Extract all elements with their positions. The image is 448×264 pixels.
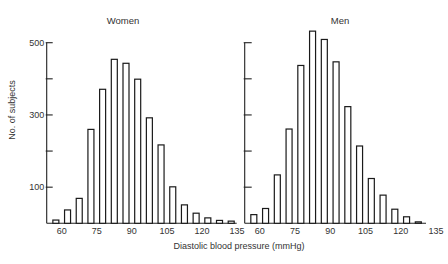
x-tick-labels: 607590105120135 (57, 226, 245, 236)
y-tick-label: 500 (29, 38, 44, 48)
x-tick-label: 135 (428, 226, 443, 236)
histogram-bar-60-65 (263, 208, 269, 223)
histogram-bar-55-60 (251, 215, 257, 224)
x-tick-label: 75 (290, 226, 300, 236)
y-tick-labels: 100300500 (29, 38, 44, 192)
y-axis-label: No. of subjects (7, 80, 17, 140)
x-tick-label: 90 (325, 226, 335, 236)
histogram-bar-65-70 (274, 175, 280, 223)
women-panel: Women 100300500 607590105120135 (29, 15, 244, 236)
histogram-bar-95-100 (146, 118, 152, 223)
histogram-figure: No. of subjects Women 100300500 60759010… (0, 0, 448, 264)
histogram-bar-120-125 (205, 218, 211, 223)
men-panel-title: Men (331, 15, 349, 26)
x-tick-label: 135 (230, 226, 245, 236)
y-tick-label: 100 (29, 182, 44, 192)
x-axis-label: Diastolic blood pressure (mmHg) (173, 241, 304, 251)
histogram-bar-105-110 (170, 187, 176, 223)
histogram-bar-75-80 (298, 65, 304, 223)
histogram-bar-90-95 (135, 79, 141, 223)
histogram-bar-65-70 (76, 198, 82, 223)
histogram-bar-125-130 (415, 222, 421, 223)
women-panel-title: Women (107, 15, 140, 26)
histogram-bar-125-130 (217, 220, 223, 223)
x-tick-label: 105 (358, 226, 373, 236)
x-tick-label: 75 (92, 226, 102, 236)
bars (53, 59, 234, 223)
x-tick-label: 120 (194, 226, 209, 236)
histogram-bar-85-90 (321, 39, 327, 223)
histogram-bar-110-115 (380, 195, 386, 223)
x-tick-label: 60 (57, 226, 67, 236)
histogram-bar-70-75 (286, 129, 292, 223)
histogram-bar-75-80 (100, 89, 106, 223)
x-tick-labels: 607590105120135 (255, 226, 444, 236)
histogram-bar-115-120 (392, 209, 398, 223)
histogram-bar-70-75 (88, 129, 94, 223)
histogram-bar-130-135 (228, 221, 234, 223)
histogram-bar-100-105 (357, 146, 363, 223)
histogram-bar-80-85 (111, 59, 117, 223)
x-tick-label: 105 (159, 226, 174, 236)
histogram-bar-95-100 (345, 107, 351, 224)
bars (251, 31, 422, 223)
histogram-bar-105-110 (368, 179, 374, 224)
x-tick-label: 120 (393, 226, 408, 236)
histogram-bar-120-125 (404, 217, 410, 224)
x-tick-label: 90 (127, 226, 137, 236)
men-panel: Men 607590105120135 (244, 15, 444, 236)
histogram-bar-110-115 (181, 205, 187, 223)
histogram-bar-90-95 (333, 62, 339, 223)
histogram-bar-55-60 (53, 220, 59, 223)
x-tick-label: 60 (255, 226, 265, 236)
histogram-bar-85-90 (123, 63, 129, 223)
histogram-bar-115-120 (193, 213, 199, 223)
y-tick-label: 300 (29, 110, 44, 120)
histogram-bar-100-105 (158, 145, 164, 223)
histogram-bar-80-85 (310, 31, 316, 223)
histogram-bar-60-65 (65, 210, 71, 223)
